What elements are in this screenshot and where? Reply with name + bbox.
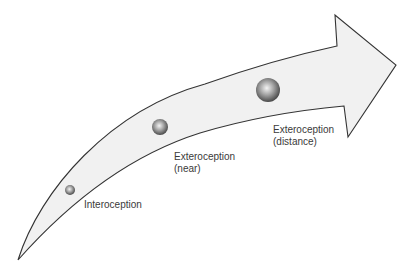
label-line: Exteroception <box>174 151 235 163</box>
label-exteroception-distance: Exteroception (distance) <box>273 124 334 147</box>
diagram-canvas: Interoception Exteroception (near) Exter… <box>0 0 412 271</box>
label-line: (near) <box>174 163 235 175</box>
curved-arrow-icon <box>18 15 396 260</box>
sphere-exteroception-near-icon <box>152 119 168 135</box>
label-line: Exteroception <box>273 124 334 136</box>
label-interoception: Interoception <box>84 199 142 211</box>
sphere-interoception-icon <box>65 185 75 195</box>
label-line: (distance) <box>273 136 334 148</box>
progression-arrow-graphic <box>0 0 412 271</box>
sphere-exteroception-distance-icon <box>256 78 280 102</box>
label-exteroception-near: Exteroception (near) <box>174 151 235 174</box>
label-line: Interoception <box>84 199 142 211</box>
